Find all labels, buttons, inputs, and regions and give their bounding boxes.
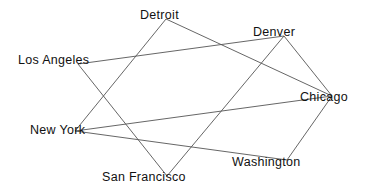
edges-layer xyxy=(75,19,332,176)
edge-detroit-new-york xyxy=(75,19,166,131)
graph-diagram: DetroitDenverLos AngelesChicagoNew YorkW… xyxy=(0,0,384,192)
labels-layer: DetroitDenverLos AngelesChicagoNew YorkW… xyxy=(18,8,348,184)
node-label-new-york: New York xyxy=(30,123,86,137)
node-label-denver: Denver xyxy=(253,25,295,39)
edge-detroit-chicago xyxy=(166,19,332,96)
node-label-chicago: Chicago xyxy=(300,90,348,104)
edge-denver-chicago xyxy=(284,36,332,96)
edge-chicago-washington xyxy=(287,96,332,160)
node-label-san-francisco: San Francisco xyxy=(102,170,186,184)
node-label-detroit: Detroit xyxy=(140,8,179,22)
graph-canvas: DetroitDenverLos AngelesChicagoNew YorkW… xyxy=(0,0,384,192)
node-label-los-angeles: Los Angeles xyxy=(18,53,89,67)
node-label-washington: Washington xyxy=(232,155,301,169)
edge-chicago-new-york xyxy=(75,96,332,131)
